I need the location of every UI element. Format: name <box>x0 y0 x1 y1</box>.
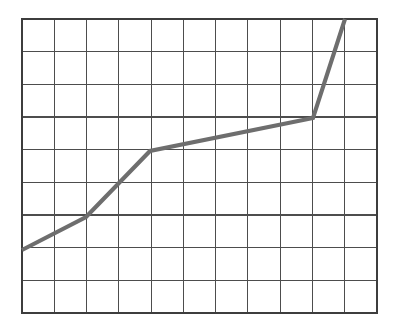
chart-figure: A rising polyline plotted over a plain 1… <box>0 0 396 327</box>
line-chart-canvas <box>0 0 396 327</box>
